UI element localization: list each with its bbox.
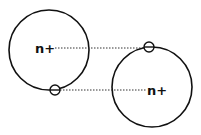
electron-right-top bbox=[144, 42, 154, 52]
ion-left: n+ bbox=[9, 10, 89, 90]
ion-electron-diagram: n+ n+ bbox=[0, 0, 201, 135]
electron-left-bottom bbox=[50, 85, 60, 95]
ion-left-label: n+ bbox=[35, 41, 55, 56]
ion-right-label: n+ bbox=[147, 83, 167, 98]
ion-right: n+ bbox=[112, 47, 192, 127]
